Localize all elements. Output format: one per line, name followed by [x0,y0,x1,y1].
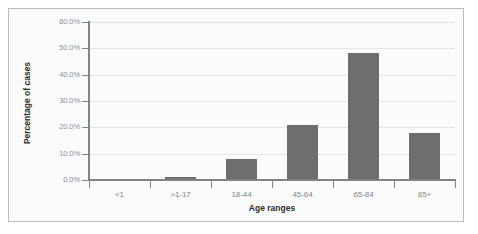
y-axis-line [88,21,90,181]
y-axis-tick-label: 0.0% [34,175,80,184]
y-axis-tick [82,22,88,23]
x-axis-tick [394,181,395,188]
x-axis-tick-label: 18-44 [211,190,272,199]
bar [226,159,258,180]
x-axis-tick [211,181,212,188]
bar [287,125,319,180]
x-axis-tick-label: 65-84 [333,190,394,199]
y-axis-tick-label: 40.0% [34,70,80,79]
y-axis-tick [82,127,88,128]
x-axis-tick-label: 85+ [394,190,455,199]
x-axis-tick-label: 45-64 [272,190,333,199]
gridline [89,22,455,23]
bar [409,133,441,180]
gridline [89,75,455,76]
x-axis-tick-label: >1-17 [150,190,211,199]
gridline [89,48,455,49]
gridline [89,154,455,155]
y-axis-tick-labels: 60.0%50.0%40.0%30.0%20.0%10.0%0.0% [30,0,80,234]
y-axis-tick-label: 30.0% [34,96,80,105]
y-axis-tick [82,101,88,102]
y-axis-tick [82,48,88,49]
x-axis-title: Age ranges [89,203,455,213]
y-axis-tick-label: 60.0% [34,17,80,26]
y-axis-tick-label: 20.0% [34,122,80,131]
gridline [89,127,455,128]
y-axis-tick-label: 10.0% [34,149,80,158]
y-axis-tick [82,75,88,76]
x-axis-tick [455,181,456,188]
gridline [89,101,455,102]
y-axis-tick-label: 50.0% [34,43,80,52]
bar [348,53,380,180]
x-axis-tick-label: <1 [89,190,150,199]
plot-area [89,22,455,180]
y-axis-tick [82,154,88,155]
figure: Percentage of cases 60.0%50.0%40.0%30.0%… [0,0,478,234]
x-axis-tick [272,181,273,188]
x-axis-tick [89,181,90,188]
y-axis-tick [82,180,88,181]
x-axis-tick [333,181,334,188]
x-axis-tick [150,181,151,188]
